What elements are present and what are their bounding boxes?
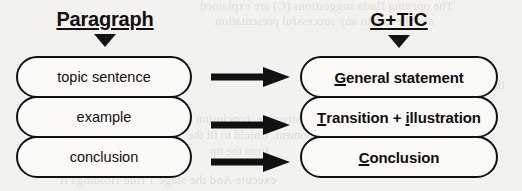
list-item[interactable]: example (16, 96, 192, 138)
right-arrow-icon (211, 151, 290, 173)
list-item[interactable]: Transition + illustration (300, 96, 498, 138)
list-item[interactable]: conclusion (16, 136, 192, 178)
list-item[interactable]: General statement (300, 56, 498, 98)
column-heading-paragraph: Paragraph (0, 8, 210, 31)
list-item[interactable]: topic sentence (16, 56, 192, 98)
triangle-down-icon (388, 35, 410, 48)
gtic-column: General statement Transition + illustrat… (300, 56, 498, 178)
triangle-down-icon (94, 34, 116, 47)
pill-label: Transition + illustration (317, 110, 481, 125)
pill-label: General statement (334, 70, 463, 85)
paragraph-column: topic sentence example conclusion (16, 56, 192, 178)
pill-label: topic sentence (57, 70, 151, 85)
diagram-canvas: Paragraph topic sentence example conclus… (0, 0, 522, 191)
pill-label: conclusion (70, 150, 139, 165)
list-item[interactable]: Conclusion (300, 136, 498, 178)
right-arrow-icon (211, 114, 290, 136)
column-heading-gtic: G+TiC (300, 9, 498, 31)
pill-label: Conclusion (359, 150, 440, 165)
pill-label: example (77, 110, 132, 125)
right-arrow-icon (211, 66, 290, 88)
